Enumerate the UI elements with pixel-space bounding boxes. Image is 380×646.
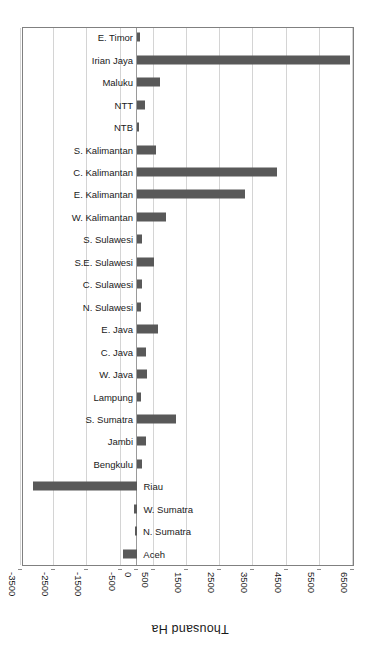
x-tick-mark [51,569,55,570]
bar-row: E. Timor [23,26,353,48]
x-tick-mark [134,569,138,570]
x-tick-label: 1500 [173,572,184,593]
x-tick-label: 4500 [273,572,284,593]
bar-row: Lampung [23,385,353,407]
bar [134,504,137,513]
bar [137,302,141,311]
x-tick-label: -500 [107,572,118,591]
bar-row: S. Kalimantan [23,138,353,160]
bar-row: W. Java [23,363,353,385]
bar-row: C. Sulawesi [23,273,353,295]
bar [137,235,141,244]
x-tick-label: 2500 [206,572,217,593]
bar [135,527,137,536]
bar [137,123,139,132]
bar [137,33,140,42]
bar-row: S.E. Sulawesi [23,251,353,273]
x-tick-label: -3500 [7,572,18,596]
bar-row: Bengkulu [23,453,353,475]
bar [137,325,158,334]
bar [137,55,350,64]
x-tick-mark [118,569,122,570]
bar-row: Jambi [23,430,353,452]
value-axis-tick-labels: 6500550045003500250015005000-500-1500-25… [0,570,380,614]
bar-row: S. Sumatra [23,408,353,430]
x-tick-mark [184,569,188,570]
category-label: S. Kalimantan [74,144,133,155]
bar-row: W. Kalimantan [23,206,353,228]
category-label: NTT [115,99,133,110]
category-label: S. Sulawesi [84,234,134,245]
category-label: N. Sulawesi [83,301,133,312]
bar [137,78,160,87]
bar-row: E. Kalimantan [23,183,353,205]
bar [137,100,145,109]
bar-row: Maluku [23,71,353,93]
category-label: Lampung [94,391,134,402]
category-label: Aceh [143,548,165,559]
bar [137,257,154,266]
bar [137,190,245,199]
x-tick-mark [217,569,221,570]
x-tick-label: 3500 [239,572,250,593]
x-tick-label: 0 [123,572,134,577]
category-label: Jambi [108,436,133,447]
category-label: E. Kalimantan [74,189,133,200]
category-label: C. Kalimantan [74,167,134,178]
x-tick-mark [317,569,321,570]
bar [123,549,137,558]
bar [33,482,138,491]
bar [137,437,146,446]
category-label: Maluku [103,77,134,88]
x-tick-mark [84,569,88,570]
category-label: Riau [143,481,163,492]
x-tick-mark [18,569,22,570]
category-label: S.E. Sulawesi [75,256,134,267]
bar [137,392,140,401]
bar-row: C. Kalimantan [23,161,353,183]
bar-row: Irian Jaya [23,48,353,70]
bar-row: N. Sulawesi [23,296,353,318]
category-label: E. Java [102,324,134,335]
bar-row: NTB [23,116,353,138]
plot-area: AcehN. SumatraW. SumatraRiauBengkuluJamb… [22,27,354,566]
x-tick-label: 500 [140,572,151,588]
bar [137,370,147,379]
bar [137,145,156,154]
bar-row: W. Sumatra [23,498,353,520]
bar-row: Aceh [23,543,353,565]
x-tick-mark [350,569,354,570]
category-label: W. Java [99,369,133,380]
category-label: S. Sumatra [86,414,134,425]
x-tick-mark [151,569,155,570]
category-label: Bengkulu [94,458,134,469]
category-label: W. Kalimantan [72,211,133,222]
category-label: Irian Jaya [92,54,133,65]
bar [137,415,176,424]
bar-row: N. Sumatra [23,520,353,542]
axis-title: Thousand Ha [0,622,380,636]
category-label: C. Java [101,346,133,357]
gridline [20,28,21,565]
bar [137,280,142,289]
bar [137,459,142,468]
bar-row: S. Sulawesi [23,228,353,250]
category-label: E. Timor [98,32,133,43]
bar-row: Riau [23,475,353,497]
chart-figure: Thousand Ha 6500550045003500250015005000… [0,0,380,646]
x-tick-mark [284,569,288,570]
x-tick-mark [250,569,254,570]
category-label: NTB [114,122,133,133]
bar [137,212,166,221]
category-label: W. Sumatra [143,503,193,514]
bar [137,347,146,356]
category-label: C. Sulawesi [83,279,133,290]
bar-row: C. Java [23,340,353,362]
x-tick-label: 6500 [339,572,350,593]
bar-row: E. Java [23,318,353,340]
x-tick-label: -1500 [73,572,84,596]
category-label: N. Sumatra [143,526,191,537]
bar-row: NTT [23,93,353,115]
x-tick-label: -2500 [40,572,51,596]
bar [137,168,276,177]
